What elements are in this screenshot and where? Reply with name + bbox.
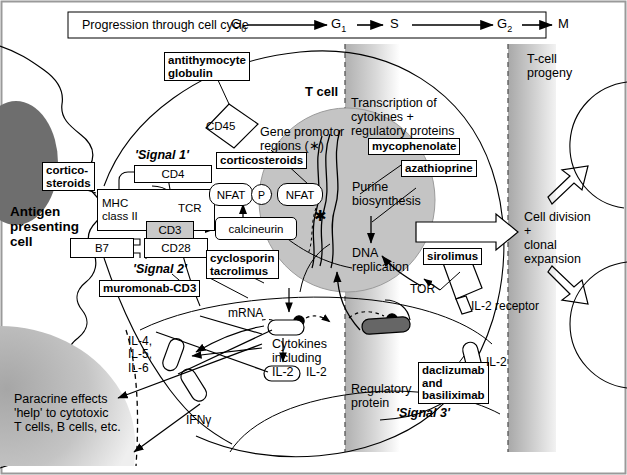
dna-replication-label: DNA replication (352, 246, 409, 274)
t-cell-label: T cell (305, 85, 338, 100)
nfat-active[interactable]: NFAT (277, 183, 323, 206)
drug-sirolimus[interactable]: sirolimus (423, 248, 482, 265)
il2-ligand-label: IL-2 (486, 356, 507, 369)
cell-cycle-caption: Progression through cell cycle (82, 18, 249, 32)
phase-label-s: S (390, 17, 399, 32)
cd45-label: CD45 (206, 120, 235, 133)
b7-receptor[interactable]: B7 (70, 238, 134, 258)
transcription-label: Transcription of cytokines + regulatory … (351, 96, 455, 138)
drug-corticosteroids-gene[interactable]: corticosteroids (216, 152, 307, 169)
drug-azathioprine[interactable]: azathioprine (401, 160, 477, 177)
drug-mycophenolate[interactable]: mycophenolate (368, 138, 460, 155)
calcineurin[interactable]: calcineurin (215, 217, 297, 240)
cd4-receptor[interactable]: CD4 (134, 165, 212, 183)
phase-label-m: M (558, 17, 569, 32)
signal-2-label: 'Signal 2' (133, 262, 187, 276)
tcr-label: TCR (178, 202, 202, 215)
gene-promotor-asterisk: ✱ (314, 207, 327, 225)
tor-label: TOR (410, 283, 435, 296)
interleukins-label: IL-4, IL-5, IL-6 (128, 335, 152, 375)
drug-corticosteroids-apc[interactable]: cortico- steroids (42, 162, 95, 191)
t-cell-progeny-label: T-cell progeny (527, 52, 572, 80)
phase-label-g1: G1 (331, 17, 346, 34)
phase-label-g0: G0 (231, 17, 246, 34)
cd3-receptor[interactable]: CD3 (146, 221, 194, 239)
regulatory-protein-shape (362, 316, 411, 334)
antigen-presenting-cell-label: Antigen presenting cell (10, 204, 79, 249)
regulatory-protein-label: Regulatory protein (351, 382, 411, 410)
cd28-receptor[interactable]: CD28 (144, 238, 208, 258)
interleukin-vesicle (161, 337, 186, 373)
signal-1-label: 'Signal 1' (135, 148, 189, 162)
drug-daclizumab-basiliximab[interactable]: daclizumab and basiliximab (418, 362, 489, 404)
phosphate-group: P (251, 184, 272, 205)
cytokines-including-label: Cytokines including IL-2 (272, 337, 327, 379)
cytokine-vesicle-1 (268, 320, 304, 335)
mrna-label: mRNA (228, 307, 263, 320)
phase-label-g2: G2 (497, 17, 512, 34)
immunosuppressant-pathway-figure: ✱ (0, 0, 627, 475)
ifn-gamma-label: IFNγ (186, 414, 211, 427)
paracrine-effects-label: Paracrine effects 'help' to cytotoxic T … (14, 392, 121, 434)
purine-biosynthesis-label: Purine biosynthesis (352, 180, 421, 208)
il2-receptor-label: IL-2 receptor (471, 300, 539, 313)
cell-division-label: Cell division + clonal expansion (524, 210, 591, 266)
nfat-phosphorylated[interactable]: NFAT (209, 183, 253, 206)
drug-cyclosporin-tacrolimus[interactable]: cyclosporin tacrolimus (206, 250, 279, 279)
drug-antithymocyte-globulin[interactable]: antithymocyte globulin (164, 52, 250, 81)
drug-muromonab-cd3[interactable]: muromonab-CD3 (99, 280, 200, 297)
gene-promotor-label: Gene promotor regions (∗) (260, 125, 344, 153)
